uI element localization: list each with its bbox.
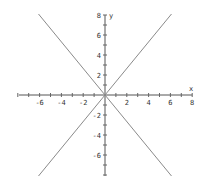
y-tick-label: 2 — [97, 72, 101, 80]
x-tick-label: 6 — [168, 99, 172, 107]
y-tick-label: -4 — [93, 132, 101, 140]
x-tick-label: -2 — [79, 99, 87, 107]
y-axis-label: y — [109, 12, 113, 20]
y-tick-label: 8 — [97, 12, 101, 20]
x-tick-label: -4 — [57, 99, 65, 107]
x-tick-label: 2 — [125, 99, 129, 107]
y-tick-label: -2 — [93, 112, 101, 120]
x-tick-label: 4 — [146, 99, 150, 107]
x-tick-label: -6 — [35, 99, 43, 107]
chart: -6-4-224688642-2-4-6xy — [0, 0, 206, 189]
x-axis-label: x — [189, 85, 193, 93]
y-tick-label: 4 — [97, 52, 101, 60]
y-tick-label: -6 — [93, 152, 101, 160]
y-tick-label: 6 — [97, 32, 101, 40]
tick-labels: -6-4-224688642-2-4-6xy — [35, 12, 194, 160]
x-tick-label: 8 — [190, 99, 194, 107]
